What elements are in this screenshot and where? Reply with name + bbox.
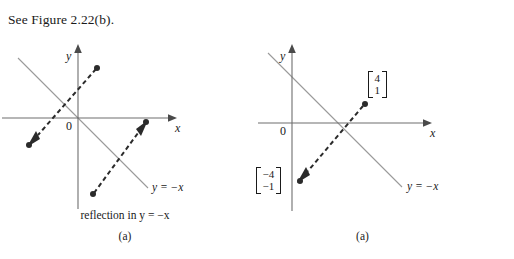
y-axis-arrowhead [74, 44, 82, 53]
x-axis-label: x [175, 121, 180, 136]
intro-text: See Figure 2.22(b). [8, 12, 114, 28]
bracket-right-icon [276, 167, 281, 194]
figure-panel-right: y x 0 y = −x 4 1 −4 −1 [250, 35, 514, 259]
vector-arrow-shaft [308, 106, 363, 171]
bracket-right-icon [382, 71, 387, 98]
mirror-line-label: y = −x [152, 181, 183, 193]
vector-end-dot-2 [143, 119, 149, 125]
vector-label-neg4-neg1-bottom: −1 [263, 180, 275, 192]
y-axis-arrowhead [288, 44, 296, 53]
coordinate-plot-right [250, 35, 514, 220]
figure-caption-letter: (a) [0, 230, 250, 242]
mirror-line-y-equals-minus-x [18, 58, 148, 188]
mirror-line-label: y = −x [407, 180, 438, 192]
vector-start-dot [362, 101, 368, 107]
vector-label-4-1: 4 1 [368, 71, 387, 100]
vector-arrow-shaft-2 [94, 133, 138, 193]
vector-label-4-1-top: 4 [375, 72, 381, 84]
vector-label-4-1-bottom: 1 [375, 84, 381, 96]
origin-label: 0 [280, 124, 286, 139]
figure-page: See Figure 2.22(b). y x [0, 0, 514, 259]
figure-caption-letter: (a) [250, 230, 475, 242]
figure-panel-left: y x 0 y = −x reflection in y = −x (a) [0, 35, 250, 259]
vector-label-neg4-neg1: −4 −1 [256, 167, 281, 196]
origin-label: 0 [66, 119, 72, 134]
vector-start-dot-2 [90, 191, 96, 197]
coordinate-plot-left [0, 35, 250, 220]
vector-label-neg4-neg1-top: −4 [263, 168, 275, 180]
vector-end-dot-1 [26, 142, 32, 148]
y-axis-label: y [66, 49, 71, 64]
y-axis-label: y [280, 49, 285, 64]
x-axis-label: x [430, 126, 435, 141]
vector-start-dot-1 [94, 65, 100, 71]
figure-caption-text: reflection in y = −x [0, 209, 250, 221]
vector-end-dot [297, 178, 303, 184]
